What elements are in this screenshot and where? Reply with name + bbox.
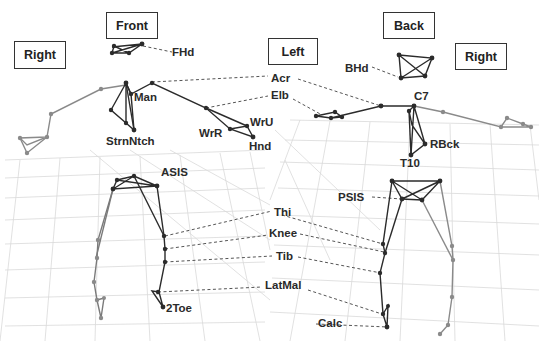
marker-label-wrr: WrR [199, 128, 222, 140]
marker-label-latmal: LatMal [265, 280, 301, 292]
back-view-title: Back [383, 12, 435, 39]
front-right-side-label: Right [14, 41, 66, 69]
marker-label-hnd: Hnd [249, 141, 271, 153]
marker-label-calc: Calc [318, 318, 342, 330]
marker-label-man: Man [134, 92, 157, 104]
marker-label-knee: Knee [269, 228, 297, 240]
marker-label-thi: Thi [274, 207, 291, 219]
marker-label-asis: ASIS [161, 167, 188, 179]
back-floor-grid [270, 120, 539, 341]
front-left-side-label: Left [268, 38, 318, 65]
marker-label-t10: T10 [400, 158, 420, 170]
marker-label-strnntch: StrnNtch [106, 136, 155, 148]
marker-placement-figure: Front Right Left Back Right FHd BHd Acr … [0, 0, 539, 341]
marker-label-c7: C7 [414, 91, 429, 103]
back-right-leg [422, 181, 453, 334]
marker-label-rbck: RBck [430, 139, 459, 151]
front-right-dots [18, 87, 106, 320]
marker-label-bhd: BHd [345, 63, 369, 75]
marker-label-wru: WrU [250, 117, 273, 129]
front-pelvis-legs [113, 176, 165, 307]
marker-label-fhd: FHd [172, 47, 194, 59]
marker-label-tib: Tib [276, 251, 293, 263]
back-right-side-label: Right [455, 43, 507, 70]
marker-label-psis: PSIS [338, 192, 364, 204]
marker-label-acr: Acr [271, 73, 290, 85]
front-view-title: Front [106, 12, 158, 39]
marker-label-2toe: 2Toe [166, 303, 192, 315]
marker-label-elb: Elb [271, 90, 289, 102]
